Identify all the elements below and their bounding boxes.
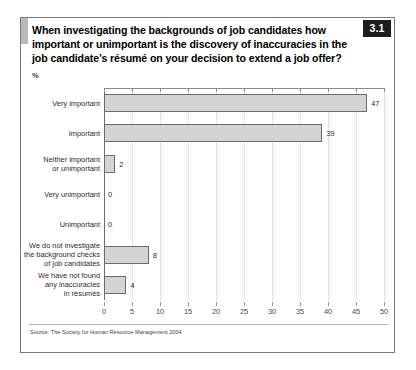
- bar-row: 47: [104, 94, 384, 112]
- bar: [104, 276, 126, 294]
- plot-area: 473920084: [104, 88, 384, 300]
- figure-number-badge: 3.1: [363, 20, 391, 37]
- x-tick-mark-50: [384, 302, 385, 306]
- unit-label: %: [32, 71, 39, 80]
- bar-row: 8: [104, 246, 384, 264]
- bar-row: 0: [104, 215, 384, 233]
- x-tick-label-50: 50: [380, 307, 388, 316]
- x-tick-label-10: 10: [156, 307, 164, 316]
- bar-value-label: 8: [153, 250, 157, 259]
- category-label: Very important: [52, 99, 100, 108]
- x-tick-label-35: 35: [296, 307, 304, 316]
- top-tick-45: [356, 88, 357, 92]
- figure-panel: When investigating the backgrounds of jo…: [20, 17, 395, 353]
- x-tick-label-15: 15: [184, 307, 192, 316]
- top-tick-25: [244, 88, 245, 92]
- x-tick-mark-10: [160, 302, 161, 306]
- x-tick-label-5: 5: [130, 307, 134, 316]
- top-tick-50: [384, 88, 385, 92]
- category-label: We have not found any inaccuracies in ré…: [38, 271, 100, 298]
- x-tick-label-45: 45: [352, 307, 360, 316]
- category-label: Important: [69, 129, 100, 138]
- bar-value-label: 0: [108, 190, 112, 199]
- x-tick-mark-30: [272, 302, 273, 306]
- bar: [104, 246, 149, 264]
- x-tick-mark-25: [244, 302, 245, 306]
- x-tick-label-20: 20: [212, 307, 220, 316]
- top-tick-0: [104, 88, 105, 92]
- top-tick-5: [132, 88, 133, 92]
- bar-row: 2: [104, 155, 384, 173]
- chart-title: When investigating the backgrounds of jo…: [32, 23, 352, 66]
- x-tick-label-30: 30: [268, 307, 276, 316]
- x-tick-mark-35: [300, 302, 301, 306]
- x-tick-mark-20: [216, 302, 217, 306]
- source-note: Source: The Society for Human Resource M…: [30, 329, 182, 335]
- title-accent-bar: [21, 18, 28, 44]
- x-tick-mark-0: [104, 302, 105, 306]
- plot-wrapper: Very importantImportantNeither important…: [21, 86, 396, 354]
- category-label: Neither important or unimportant: [43, 155, 100, 173]
- gridline-50: [384, 88, 385, 300]
- top-tick-10: [160, 88, 161, 92]
- x-tick-label-25: 25: [240, 307, 248, 316]
- x-tick-mark-5: [132, 302, 133, 306]
- category-label: We do not investigate the background che…: [24, 241, 100, 268]
- x-tick-mark-40: [328, 302, 329, 306]
- x-tick-mark-15: [188, 302, 189, 306]
- bar-value-label: 0: [108, 220, 112, 229]
- bar: [104, 124, 322, 142]
- category-label: Very unimportant: [44, 190, 100, 199]
- top-tick-20: [216, 88, 217, 92]
- bar-row: 0: [104, 185, 384, 203]
- top-tick-15: [188, 88, 189, 92]
- top-tick-35: [300, 88, 301, 92]
- bar-value-label: 4: [130, 280, 134, 289]
- top-tick-40: [328, 88, 329, 92]
- bar: [104, 155, 115, 173]
- source-divider: [29, 324, 388, 325]
- category-axis-labels: Very importantImportantNeither important…: [21, 88, 100, 300]
- bar-value-label: 39: [326, 129, 334, 138]
- bar-row: 4: [104, 276, 384, 294]
- bar-value-label: 2: [119, 159, 123, 168]
- x-tick-label-0: 0: [102, 307, 106, 316]
- x-axis-ticks: 05101520253035404550: [104, 302, 385, 316]
- x-tick-mark-45: [356, 302, 357, 306]
- bar-row: 39: [104, 124, 384, 142]
- category-label: Unimportant: [60, 220, 100, 229]
- title-block: When investigating the backgrounds of jo…: [21, 18, 394, 86]
- x-tick-label-40: 40: [324, 307, 332, 316]
- bar: [104, 94, 367, 112]
- top-tick-30: [272, 88, 273, 92]
- bar-value-label: 47: [371, 99, 379, 108]
